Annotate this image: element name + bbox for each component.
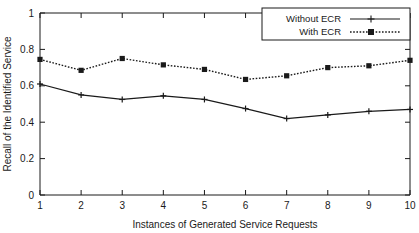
data-point-marker [243,77,248,82]
data-point-marker [120,56,125,61]
x-axis-title: Instances of Generated Service Requests [132,219,317,230]
marker-square [37,57,42,62]
y-tick-label: 0.2 [20,153,34,164]
data-point-marker [79,68,84,73]
legend-label-without-ecr: Without ECR [286,13,341,24]
data-point-marker [161,62,166,67]
x-tick-label: 7 [284,200,290,211]
y-tick-label: 0.6 [20,80,34,91]
marker-square [161,62,166,67]
data-point-marker [202,67,207,72]
x-tick-label: 1 [37,200,43,211]
x-tick-label: 3 [119,200,125,211]
legend-label-with-ecr: With ECR [299,26,341,37]
data-point-marker [407,58,412,63]
y-tick-label: 0.8 [20,44,34,55]
marker-square [284,73,289,78]
chart-figure: 00.20.40.60.81 12345678910 Instances of … [0,0,419,233]
marker-square [120,56,125,61]
y-tick-label: 0 [28,190,34,201]
x-tick-label: 10 [404,200,416,211]
data-point-marker [325,65,330,70]
y-tick-label: 1 [28,8,34,19]
data-point-marker [284,73,289,78]
marker-square [202,67,207,72]
y-axis-title: Recall of the Identified Service [2,36,13,172]
data-point-marker [37,57,42,62]
x-tick-label: 4 [161,200,167,211]
recall-line-chart: 00.20.40.60.81 12345678910 Instances of … [0,0,419,233]
marker-square [243,77,248,82]
x-tick-label: 5 [202,200,208,211]
data-point-marker [366,63,371,68]
marker-square [407,58,412,63]
marker-square [366,63,371,68]
x-tick-label: 6 [243,200,249,211]
x-tick-label: 2 [78,200,84,211]
marker-square [325,65,330,70]
marker-square [79,68,84,73]
y-tick-label: 0.4 [20,117,34,128]
chart-legend: Without ECR With ECR [262,8,410,40]
x-tick-label: 8 [325,200,331,211]
x-tick-label: 9 [366,200,372,211]
